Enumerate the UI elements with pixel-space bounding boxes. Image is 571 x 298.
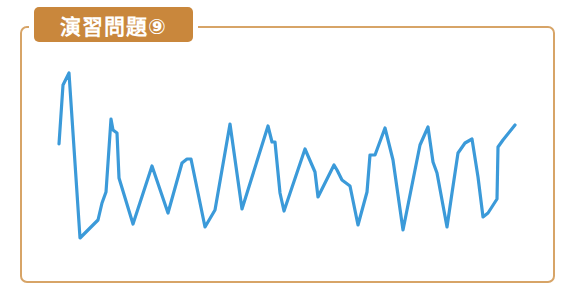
waveform-chart [0, 0, 571, 298]
exercise-title-text: 演習問題⑨ [60, 10, 167, 40]
exercise-title: 演習問題⑨ [34, 7, 193, 42]
waveform-line [59, 73, 515, 238]
